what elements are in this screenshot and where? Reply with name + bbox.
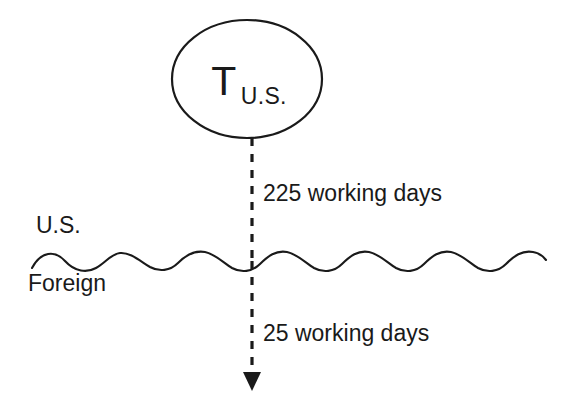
diagram-canvas: T U.S. U.S. Foreign 225 working days 25 … (0, 0, 572, 419)
boundary-lower-region-label: Foreign (28, 272, 106, 295)
node-label-inner: T U.S. (211, 58, 286, 105)
duration-label-upper: 225 working days (263, 182, 442, 205)
boundary-upper-region-label: U.S. (36, 214, 81, 237)
node-base-symbol: T (211, 58, 237, 105)
flow-arrowhead-icon (243, 372, 261, 391)
node-label: T U.S. (172, 20, 322, 138)
duration-label-lower: 25 working days (263, 322, 429, 345)
node-subscript-label: U.S. (241, 83, 287, 110)
boundary-wavy-line (32, 252, 546, 271)
